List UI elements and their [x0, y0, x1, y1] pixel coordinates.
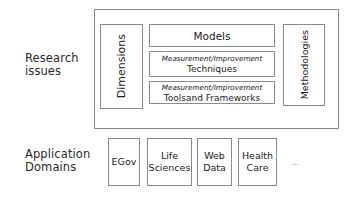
domain-life-sciences-line2: Sciences: [149, 162, 191, 174]
domain-life-sciences-line1: Life: [161, 150, 178, 162]
application-domains-label-line2: Domains: [25, 161, 90, 174]
tools-frameworks-box: Measurement/Improvement Toolsand Framewo…: [149, 81, 275, 104]
methodologies-box: Methodologies: [283, 24, 325, 106]
domain-health-care-line2: Care: [247, 162, 269, 174]
domain-web-data-line2: Data: [203, 162, 226, 174]
dimensions-box: Dimensions: [100, 24, 143, 109]
research-issues-label: Research issues: [25, 52, 79, 78]
domain-egov-label: EGov: [112, 156, 137, 168]
domain-box-health-care: Health Care: [238, 138, 277, 186]
domain-box-web-data: Web Data: [197, 138, 232, 186]
models-box: Models: [149, 24, 275, 47]
domain-web-data-line1: Web: [204, 150, 225, 162]
models-label: Models: [194, 30, 231, 42]
techniques-line2: Techniques: [187, 64, 237, 74]
methodologies-label: Methodologies: [299, 30, 310, 99]
techniques-line1: Measurement/Improvement: [162, 54, 262, 64]
application-domains-label: Application Domains: [25, 148, 90, 174]
more-domains-ellipsis: ...: [292, 158, 300, 167]
dimensions-label: Dimensions: [115, 34, 128, 98]
tools-line2: Toolsand Frameworks: [164, 93, 260, 103]
techniques-box: Measurement/Improvement Techniques: [149, 51, 275, 77]
domain-box-egov: EGov: [108, 138, 140, 186]
research-issues-label-line2: issues: [25, 65, 79, 78]
tools-line1: Measurement/Improvement: [162, 83, 262, 93]
domain-box-life-sciences: Life Sciences: [147, 138, 192, 186]
domain-health-care-line1: Health: [242, 150, 273, 162]
